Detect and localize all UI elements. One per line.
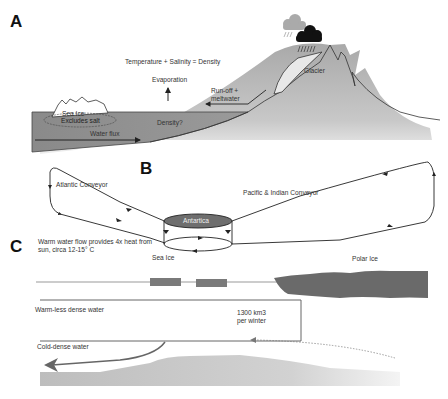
warm-water-flow-label: Warm water flow provides 4x heat from su… bbox=[38, 238, 152, 254]
warm-less-dense-water-label: Warm-less dense water bbox=[35, 306, 104, 314]
polar-ice-shelf bbox=[274, 271, 428, 298]
sea-ice-c-label: Sea Ice bbox=[152, 254, 174, 262]
panel-c bbox=[36, 271, 428, 386]
atlantic-conveyor-loop-lower bbox=[50, 196, 150, 238]
water-flux-label: Water flux bbox=[90, 130, 119, 138]
panel-label-c: C bbox=[10, 237, 22, 257]
runoff-label: Run-off + meltwater bbox=[211, 87, 240, 103]
density-label: Density? bbox=[157, 119, 183, 127]
polar-ice-label: Polar Ice bbox=[352, 255, 378, 263]
dotted-return-arrow bbox=[256, 340, 395, 358]
panel-label-b: B bbox=[140, 159, 152, 179]
volume-label: 1300 km3 per winter bbox=[237, 309, 266, 325]
sea-ice-block bbox=[150, 278, 181, 286]
excludes-salt-label: Excludes salt bbox=[61, 117, 100, 125]
glacier-label: Glacier bbox=[304, 67, 325, 75]
pacific-indian-conveyor-label: Pacific & Indian Conveyor bbox=[243, 189, 319, 197]
pacific-conveyor-loop bbox=[232, 162, 434, 244]
atlantic-conveyor-label: Atlantic Conveyor bbox=[56, 181, 108, 189]
evaporation-label: Evaporation bbox=[152, 76, 187, 84]
sea-ice-block bbox=[196, 279, 227, 287]
seabed bbox=[40, 355, 400, 386]
equation-label: Temperature + Salinity = Density bbox=[125, 58, 220, 66]
antartica-label: Antartica bbox=[183, 217, 209, 225]
cold-dense-water-label: Cold-dense water bbox=[37, 343, 89, 351]
panel-label-a: A bbox=[10, 12, 22, 32]
figure-canvas bbox=[0, 0, 448, 399]
